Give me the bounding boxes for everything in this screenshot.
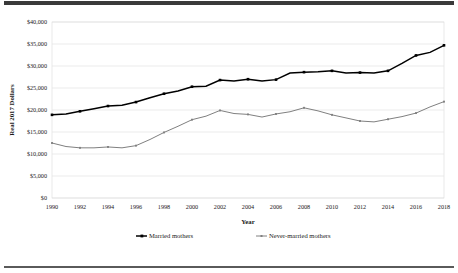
x-axis-tick-label: 2006 <box>270 203 282 210</box>
data-point-marker <box>415 54 418 57</box>
x-axis-tick-label: 1990 <box>46 203 58 210</box>
figure-root: $0$5,000$10,000$15,000$20,000$25,000$30,… <box>0 0 458 273</box>
data-point-marker <box>275 113 277 115</box>
x-axis-tick-label: 2008 <box>298 203 310 210</box>
y-axis-tick-label: $5,000 <box>30 172 47 179</box>
data-point-marker <box>387 70 390 73</box>
data-point-marker <box>219 109 221 111</box>
y-axis-title: Real 2017 Dollars <box>8 84 15 136</box>
legend-marker-swatch <box>261 235 263 237</box>
data-point-marker <box>51 142 53 144</box>
y-axis-tick-label: $0 <box>41 194 47 201</box>
y-axis-tick-label: $30,000 <box>27 62 47 69</box>
data-point-marker <box>415 112 417 114</box>
data-point-marker <box>219 79 222 82</box>
data-point-marker <box>443 101 445 103</box>
x-axis-tick-label: 2014 <box>382 203 394 210</box>
y-axis-tick-label: $40,000 <box>27 18 47 25</box>
data-point-marker <box>79 110 82 113</box>
data-point-marker <box>359 120 361 122</box>
data-point-marker <box>359 71 362 74</box>
y-axis-tick-label: $10,000 <box>27 150 47 157</box>
legend-label: Never-married mothers <box>269 232 331 239</box>
y-axis-tick-label: $35,000 <box>27 40 47 47</box>
legend-item-never-married-mothers[interactable]: Never-married mothers <box>256 232 331 239</box>
x-axis-tick-label: 2002 <box>214 203 226 210</box>
y-axis-tick-label: $15,000 <box>27 128 47 135</box>
y-axis-tick-label: $25,000 <box>27 84 47 91</box>
data-point-marker <box>303 71 306 74</box>
chart-frame: $0$5,000$10,000$15,000$20,000$25,000$30,… <box>0 6 458 264</box>
data-point-marker <box>135 101 138 104</box>
data-point-marker <box>107 146 109 148</box>
x-axis-tick-label: 2010 <box>326 203 338 210</box>
x-axis-tick-label: 2016 <box>410 203 422 210</box>
bottom-rule-divider <box>4 266 454 268</box>
line-chart: $0$5,000$10,000$15,000$20,000$25,000$30,… <box>0 6 458 264</box>
data-point-marker <box>163 131 165 133</box>
data-point-marker <box>247 78 250 81</box>
data-point-marker <box>107 105 110 108</box>
x-axis-tick-label: 1996 <box>130 203 142 210</box>
data-point-marker <box>51 114 54 117</box>
x-axis-tick-label: 1992 <box>74 203 86 210</box>
data-point-marker <box>79 147 81 149</box>
legend-label: Married mothers <box>149 232 194 239</box>
x-axis-tick-label: 2004 <box>242 203 254 210</box>
data-point-marker <box>275 78 278 81</box>
data-point-marker <box>163 92 166 95</box>
data-point-marker <box>135 145 137 147</box>
data-point-marker <box>303 107 305 109</box>
top-rule-divider <box>4 1 454 5</box>
data-point-marker <box>191 85 194 88</box>
data-point-marker <box>331 114 333 116</box>
x-axis-title: Year <box>241 218 255 225</box>
legend-item-married-mothers[interactable]: Married mothers <box>136 232 194 239</box>
data-point-marker <box>191 119 193 121</box>
legend-marker-swatch <box>141 235 144 238</box>
data-point-marker <box>387 118 389 120</box>
x-axis-tick-label: 2000 <box>186 203 198 210</box>
x-axis-tick-label: 2012 <box>354 203 366 210</box>
x-axis-tick-label: 1998 <box>158 203 170 210</box>
y-axis-tick-label: $20,000 <box>27 106 47 113</box>
data-point-marker <box>443 44 446 47</box>
x-axis-tick-label: 1994 <box>102 203 114 210</box>
x-axis-tick-label: 2018 <box>438 203 450 210</box>
data-point-marker <box>331 70 334 73</box>
data-point-marker <box>247 113 249 115</box>
